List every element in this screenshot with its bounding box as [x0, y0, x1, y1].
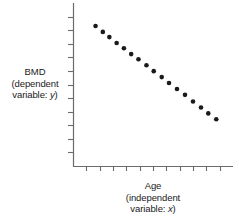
data-point — [151, 69, 156, 74]
y-axis-label: BMD (dependent variable: y) — [2, 66, 68, 101]
data-point — [129, 52, 134, 57]
y-axis-label-line-1: BMD — [2, 66, 68, 78]
data-point — [183, 93, 188, 98]
data-point — [214, 117, 219, 122]
y-axis-label-line-3-suffix: ) — [55, 89, 58, 100]
data-point — [175, 87, 180, 92]
x-axis-label-line-1: Age — [89, 180, 217, 192]
x-axis-label-line-3: variable: x) — [89, 203, 217, 215]
x-axis-label-line-2: (independent — [89, 192, 217, 204]
data-point — [93, 24, 98, 29]
x-axis-label-line-3-suffix: ) — [173, 203, 176, 214]
data-point — [191, 99, 196, 104]
y-axis-label-line-2: (dependent — [2, 78, 68, 90]
y-axis-tick-marks — [68, 18, 73, 153]
data-point — [144, 63, 149, 68]
x-axis-label: Age (independent variable: x) — [89, 180, 217, 215]
data-point — [101, 30, 106, 35]
data-point-series — [93, 24, 218, 122]
y-axis-label-line-3: variable: y) — [2, 89, 68, 101]
data-point — [107, 35, 112, 40]
scatter-plot-figure: BMD (dependent variable: y) Age (indepen… — [0, 0, 239, 223]
data-point — [136, 57, 141, 62]
data-point — [159, 75, 164, 80]
data-point — [206, 111, 211, 116]
data-point — [114, 41, 119, 46]
data-point — [199, 105, 204, 110]
data-point — [167, 81, 172, 86]
y-axis-label-line-3-prefix: variable: — [12, 89, 50, 100]
x-axis-label-line-3-prefix: variable: — [130, 203, 168, 214]
data-point — [122, 46, 127, 51]
